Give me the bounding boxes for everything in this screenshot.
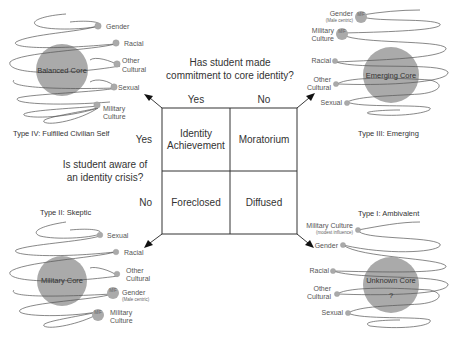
cell-diffused: Diffused <box>246 197 283 208</box>
type2-sexual-node <box>97 232 103 238</box>
type4-gender-node <box>95 23 101 29</box>
type1-label-other: Other <box>313 285 331 292</box>
question-commitment-line1: Has student made <box>189 57 271 68</box>
type2-label-cultural: Cultural <box>126 275 151 282</box>
type2-label-gender: Gender <box>122 289 146 296</box>
arrow-to-type2 <box>144 234 162 248</box>
type1-ambivalent: Type I: Ambivalent Unknown Core ? Milita… <box>306 209 448 328</box>
type1-core-label: Unknown Core <box>366 276 416 285</box>
arrowhead-icon <box>144 240 153 248</box>
question-awareness-line2: an identity crisis? <box>67 172 144 183</box>
type4-label-gender: Gender <box>106 23 130 30</box>
type3-other-cultural-node <box>333 81 338 86</box>
type3-identity-coil <box>336 10 448 115</box>
type3-label-male-centric: (Male centric) <box>326 18 354 23</box>
row-header-yes: Yes <box>136 134 152 145</box>
type2-label-male-centric: (Male centric) <box>122 297 150 302</box>
type3-label-sexual: Sexual <box>321 99 343 106</box>
type4-label-other: Other <box>122 57 140 64</box>
type1-label-modest-influence: (modest influence) <box>316 230 354 235</box>
type1-label-cultural: Cultural <box>307 293 332 300</box>
identity-status-matrix: Has student made commitment to core iden… <box>63 57 315 248</box>
cell-identity-achievement-line2: Achievement <box>167 140 225 151</box>
type4-label-racial: Racial <box>124 40 144 47</box>
type4-label-cultural: Cultural <box>122 66 147 73</box>
type1-label-sexual: Sexual <box>322 309 344 316</box>
cell-foreclosed: Foreclosed <box>171 197 220 208</box>
type3-military-badge: M/F <box>338 29 346 34</box>
type2-label-military: Military <box>110 309 133 317</box>
arrow-to-type4 <box>144 94 162 108</box>
arrow-to-type1 <box>297 234 314 248</box>
type1-other-cultural-node <box>334 291 339 296</box>
type3-label-cultural: Cultural <box>307 84 332 91</box>
type3-label-culture: Culture <box>311 35 334 42</box>
type3-core-label: Emerging Core <box>366 71 416 80</box>
type4-label-military: Military <box>103 105 126 113</box>
type4-fulfilled-civilian-self: Balanced Core Gender Racial Other Cultur… <box>10 14 147 138</box>
question-commitment-line2: commitment to core identity? <box>166 70 294 81</box>
type3-label-other: Other <box>313 76 331 83</box>
identity-status-diagram: Has student made commitment to core iden… <box>0 0 452 342</box>
type1-military-node <box>355 227 360 232</box>
type1-racial-node <box>330 268 335 273</box>
type3-title: Type III: Emerging <box>358 129 419 138</box>
type1-label-racial: Racial <box>310 267 330 274</box>
type2-core-label: Military Core <box>41 276 83 285</box>
type2-title: Type II: Skeptic <box>40 208 92 217</box>
col-header-no: No <box>258 94 271 105</box>
question-awareness-line1: Is student aware of <box>63 159 148 170</box>
type3-sexual-node <box>344 100 349 105</box>
type4-title: Type IV: Fulfilled Civilian Self <box>13 129 110 138</box>
type4-other-cultural-node <box>114 61 120 67</box>
type4-military-node <box>94 102 100 108</box>
cell-moratorium: Moratorium <box>239 134 290 145</box>
type4-label-sexual: Sexual <box>118 84 140 91</box>
type2-label-culture: Culture <box>110 317 133 324</box>
type3-label-gender: Gender <box>330 10 354 17</box>
type1-label-gender: Gender <box>315 242 339 249</box>
type2-label-other: Other <box>126 267 144 274</box>
cell-identity-achievement-line1: Identity <box>180 128 212 139</box>
type3-label-racial: Racial <box>312 57 332 64</box>
type2-military-badge: M/F <box>94 310 102 315</box>
type4-label-culture: Culture <box>103 113 126 120</box>
type2-gender-badge: M/F <box>109 288 117 293</box>
type2-label-sexual: Sexual <box>107 232 129 239</box>
type1-title: Type I: Ambivalent <box>358 209 420 218</box>
type2-skeptic: Type II: Skeptic Military Core M/F M/F S… <box>10 208 151 327</box>
type3-emerging: Emerging Core M/F M/F Gender (Male centr… <box>307 10 448 138</box>
type4-core-label: Balanced Core <box>37 66 87 75</box>
type3-gender-badge: M/F <box>357 12 365 17</box>
type4-racial-node <box>113 40 119 46</box>
col-header-yes: Yes <box>188 94 204 105</box>
type1-sexual-node <box>345 310 350 315</box>
type2-other-cultural-node <box>114 271 120 277</box>
type3-racial-node <box>332 58 337 63</box>
type1-core-unknown-mark: ? <box>389 291 393 300</box>
type2-racial-node <box>113 249 119 255</box>
type3-label-military: Military <box>312 27 335 35</box>
type4-sexual-node <box>111 84 117 90</box>
type2-label-racial: Racial <box>124 249 144 256</box>
arrow-to-type3 <box>297 93 315 108</box>
type1-label-military-culture: Military Culture <box>306 222 353 230</box>
type1-gender-node <box>340 242 345 247</box>
row-header-no: No <box>139 197 152 208</box>
